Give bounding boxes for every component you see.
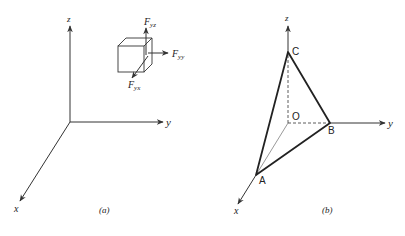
caption-a: (a): [99, 205, 110, 215]
z-axis-label: z: [284, 13, 289, 23]
panel-a: z y x Fyz Fyy Fyx (a): [13, 14, 185, 215]
x-axis-label: x: [233, 205, 239, 216]
figure-canvas: z y x Fyz Fyy Fyx (a) z y: [0, 0, 405, 236]
y-axis-label: y: [165, 116, 171, 128]
stress-cube: [118, 38, 152, 72]
force-yz-label: Fyz: [143, 16, 156, 29]
x-axis: [238, 175, 256, 204]
panel-b: z y x C O B A (b): [233, 13, 393, 216]
point-c-label: C: [292, 46, 299, 57]
point-b-label: B: [328, 125, 335, 136]
force-yx-label: Fyx: [127, 79, 141, 92]
force-yx-arrow: [132, 56, 148, 78]
force-yy-label: Fyy: [171, 48, 185, 61]
z-axis-label: z: [66, 14, 71, 24]
point-a-label: A: [259, 175, 266, 186]
x-axis-hidden: [256, 123, 288, 175]
point-o-label: O: [292, 111, 300, 122]
x-axis-label: x: [13, 203, 19, 214]
caption-b: (b): [322, 205, 333, 215]
x-axis: [20, 122, 70, 201]
y-axis-label: y: [387, 117, 393, 129]
